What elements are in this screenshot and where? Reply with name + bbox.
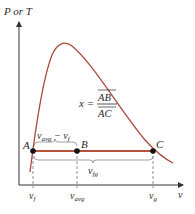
svg-text:AC: AC	[97, 108, 112, 119]
point-C-label: C	[156, 138, 164, 150]
tick-label-vg: vg	[149, 190, 157, 203]
svg-text:x =: x =	[78, 97, 94, 109]
svg-text:AB: AB	[97, 92, 111, 103]
saturation-diagram: A B C P or T v x = AB AC vavg − vf vfg v…	[0, 0, 195, 214]
tick-label-vavg: vavg	[70, 190, 85, 203]
point-B-label: B	[81, 138, 88, 150]
y-axis-label: P or T	[3, 5, 33, 17]
point-A-label: A	[22, 139, 30, 151]
x-axis-label: v	[178, 189, 183, 200]
point-B-marker	[74, 148, 80, 154]
brace-bottom-label: vfg	[88, 165, 98, 178]
point-C-marker	[150, 148, 156, 154]
point-A-marker	[30, 148, 36, 154]
brace-bottom	[34, 156, 153, 163]
tick-label-vf: vf	[29, 190, 36, 203]
